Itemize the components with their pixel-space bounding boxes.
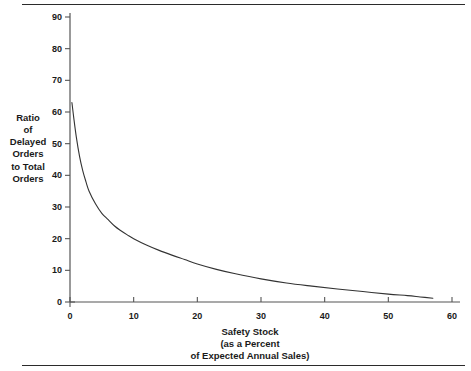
- x-tick-label: 0: [67, 312, 72, 321]
- y-tick-label: 90: [36, 13, 62, 22]
- x-tick-label: 60: [447, 312, 457, 321]
- x-tick-label: 40: [320, 312, 330, 321]
- y-tick-label: 20: [36, 234, 62, 243]
- x-axis-title-line: Safety Stock: [150, 326, 350, 338]
- x-axis-title-line: (as a Percent: [150, 338, 350, 350]
- y-tick-label: 70: [36, 76, 62, 85]
- y-axis-title-line: Orders: [0, 173, 56, 185]
- x-tick-label: 10: [129, 312, 139, 321]
- x-tick-label: 30: [256, 312, 266, 321]
- x-axis-title: Safety Stock(as a Percentof Expected Ann…: [150, 326, 350, 362]
- y-axis-title-line: Orders: [0, 148, 56, 160]
- y-axis-title-line: of: [0, 124, 56, 136]
- x-tick-label: 20: [192, 312, 202, 321]
- x-axis-title-line: of Expected Annual Sales): [150, 350, 350, 362]
- chart-figure: 0102030405060708090 0102030405060 Ratioo…: [0, 0, 471, 371]
- data-curve-line: [72, 103, 433, 299]
- y-tick-label: 10: [36, 266, 62, 275]
- axis-lines: [70, 13, 460, 302]
- y-axis-title-line: Delayed: [0, 136, 56, 148]
- y-tick-label: 80: [36, 44, 62, 53]
- y-axis-title-line: Ratio: [0, 112, 56, 124]
- y-axis-title-line: to Total: [0, 161, 56, 173]
- x-tick-label: 50: [383, 312, 393, 321]
- y-axis-title: RatioofDelayedOrdersto TotalOrders: [0, 112, 56, 185]
- y-tick-label: 30: [36, 203, 62, 212]
- y-tick-label: 0: [36, 298, 62, 307]
